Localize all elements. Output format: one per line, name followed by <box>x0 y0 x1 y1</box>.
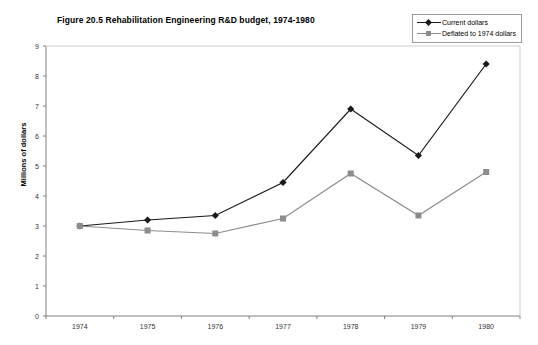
svg-text:1: 1 <box>35 283 39 290</box>
svg-text:6: 6 <box>35 133 39 140</box>
svg-text:1976: 1976 <box>207 323 223 330</box>
svg-text:4: 4 <box>35 193 39 200</box>
svg-text:1979: 1979 <box>411 323 427 330</box>
chart-series-layer <box>76 60 489 236</box>
svg-text:1980: 1980 <box>478 323 494 330</box>
figure-container: Figure 20.5 Rehabilitation Engineering R… <box>0 0 538 345</box>
x-axis-ticks: 1974197519761977197819791980 <box>46 316 520 330</box>
svg-text:1978: 1978 <box>343 323 359 330</box>
chart-plot-area: 0123456789 1974197519761977197819791980 <box>0 0 538 345</box>
svg-text:3: 3 <box>35 223 39 230</box>
y-axis-ticks: 0123456789 <box>35 43 46 320</box>
svg-text:1974: 1974 <box>72 323 88 330</box>
svg-text:1977: 1977 <box>275 323 291 330</box>
svg-text:8: 8 <box>35 73 39 80</box>
svg-text:0: 0 <box>35 313 39 320</box>
svg-text:7: 7 <box>35 103 39 110</box>
svg-text:5: 5 <box>35 163 39 170</box>
svg-text:1975: 1975 <box>140 323 156 330</box>
svg-text:9: 9 <box>35 43 39 50</box>
svg-text:2: 2 <box>35 253 39 260</box>
